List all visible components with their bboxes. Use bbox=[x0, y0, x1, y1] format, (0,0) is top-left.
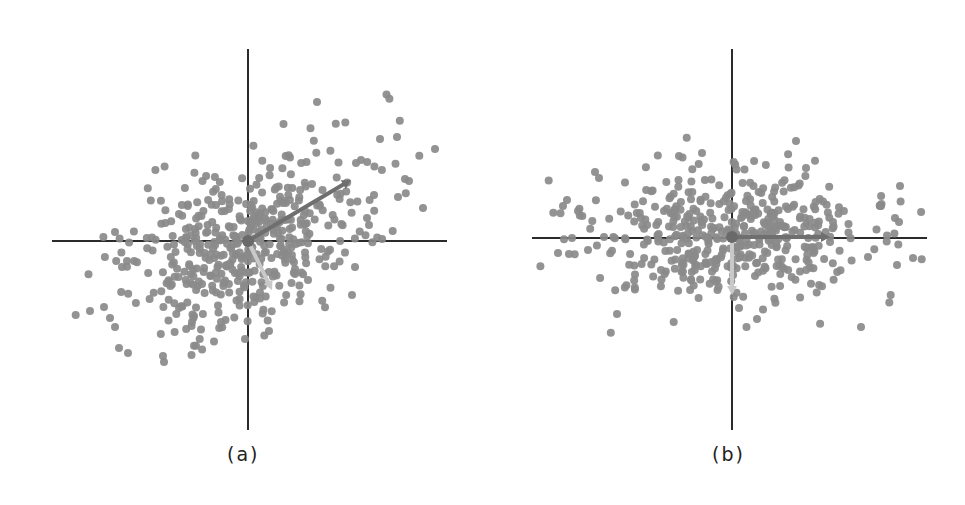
data-point bbox=[774, 255, 782, 263]
data-point bbox=[592, 196, 600, 204]
data-point bbox=[752, 259, 760, 267]
data-point bbox=[621, 234, 629, 242]
data-point bbox=[746, 179, 754, 187]
data-point bbox=[608, 247, 616, 255]
data-point bbox=[771, 184, 779, 192]
data-point bbox=[780, 188, 788, 196]
data-point bbox=[833, 268, 841, 276]
data-point bbox=[840, 207, 848, 215]
data-point bbox=[796, 268, 804, 276]
data-point bbox=[715, 181, 723, 189]
data-point bbox=[644, 237, 652, 245]
data-point bbox=[877, 192, 885, 200]
data-point bbox=[630, 218, 638, 226]
data-point bbox=[741, 262, 749, 270]
data-point bbox=[702, 233, 710, 241]
data-point bbox=[742, 241, 750, 249]
data-point bbox=[642, 163, 650, 171]
data-point bbox=[887, 291, 895, 299]
data-point bbox=[807, 280, 815, 288]
data-point bbox=[764, 223, 772, 231]
data-point bbox=[669, 217, 677, 225]
data-point bbox=[718, 251, 726, 259]
data-point bbox=[873, 226, 881, 234]
data-point bbox=[803, 251, 811, 259]
data-point bbox=[909, 254, 917, 262]
data-point bbox=[741, 166, 749, 174]
data-point bbox=[770, 198, 778, 206]
data-point bbox=[611, 234, 619, 242]
data-point bbox=[560, 235, 568, 243]
data-point bbox=[801, 172, 809, 180]
data-point bbox=[600, 233, 608, 241]
data-point bbox=[811, 205, 819, 213]
data-point bbox=[800, 223, 808, 231]
data-point bbox=[611, 286, 619, 294]
data-point bbox=[683, 134, 691, 142]
data-point bbox=[687, 178, 695, 186]
data-point bbox=[685, 210, 693, 218]
data-point bbox=[895, 218, 903, 226]
data-point bbox=[807, 264, 815, 272]
data-point bbox=[776, 218, 784, 226]
data-point bbox=[813, 288, 821, 296]
data-point bbox=[743, 192, 751, 200]
scatter-plot-b bbox=[0, 0, 965, 505]
data-point bbox=[800, 205, 808, 213]
data-point bbox=[708, 215, 716, 223]
data-point bbox=[688, 188, 696, 196]
data-point bbox=[775, 206, 783, 214]
data-point bbox=[657, 266, 665, 274]
data-point bbox=[816, 320, 824, 328]
data-point bbox=[782, 246, 790, 254]
data-point bbox=[759, 199, 767, 207]
caption-b: (b) bbox=[712, 443, 745, 465]
data-point bbox=[735, 304, 743, 312]
data-point bbox=[759, 306, 767, 314]
panel-b bbox=[0, 0, 965, 505]
data-point bbox=[617, 208, 625, 216]
data-point bbox=[890, 229, 898, 237]
data-point bbox=[651, 203, 659, 211]
data-point bbox=[829, 224, 837, 232]
data-point bbox=[624, 211, 632, 219]
data-point bbox=[757, 189, 765, 197]
data-point bbox=[877, 202, 885, 210]
data-point bbox=[586, 225, 594, 233]
data-point bbox=[780, 264, 788, 272]
data-point bbox=[857, 323, 865, 331]
data-point bbox=[791, 276, 799, 284]
data-point bbox=[759, 267, 767, 275]
data-point bbox=[647, 261, 655, 269]
data-point bbox=[640, 254, 648, 262]
data-point bbox=[830, 276, 838, 284]
data-point bbox=[743, 323, 751, 331]
data-point bbox=[695, 160, 703, 168]
data-point bbox=[709, 225, 717, 233]
data-point bbox=[730, 202, 738, 210]
data-point bbox=[796, 213, 804, 221]
data-point bbox=[621, 178, 629, 186]
data-point bbox=[671, 205, 679, 213]
data-point bbox=[588, 217, 596, 225]
data-point bbox=[894, 240, 902, 248]
data-point bbox=[897, 198, 905, 206]
data-point bbox=[545, 176, 553, 184]
data-point bbox=[745, 250, 753, 258]
data-point bbox=[675, 152, 683, 160]
data-point bbox=[759, 254, 767, 262]
data-point bbox=[784, 205, 792, 213]
data-point bbox=[654, 218, 662, 226]
data-point bbox=[638, 221, 646, 229]
data-point bbox=[762, 161, 770, 169]
data-point bbox=[728, 218, 736, 226]
data-point bbox=[701, 176, 709, 184]
data-point bbox=[574, 207, 582, 215]
data-point bbox=[698, 149, 706, 157]
data-point bbox=[712, 278, 720, 286]
data-point bbox=[820, 255, 828, 263]
data-point bbox=[730, 158, 738, 166]
data-point bbox=[654, 152, 662, 160]
data-point bbox=[778, 179, 786, 187]
data-point bbox=[613, 310, 621, 318]
